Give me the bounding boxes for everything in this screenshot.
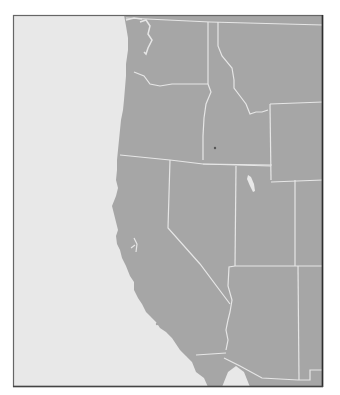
western-us-map [0,0,340,395]
location-dot [214,147,216,149]
map-container [0,0,340,395]
